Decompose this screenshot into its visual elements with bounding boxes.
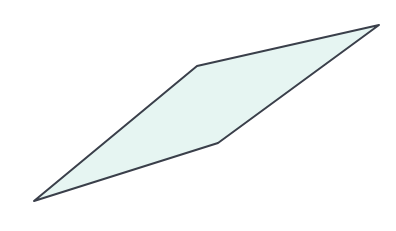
quadrilateral-diagram: [0, 0, 396, 231]
quadrilateral-shape: [34, 25, 379, 201]
diagram-canvas: [0, 0, 396, 231]
